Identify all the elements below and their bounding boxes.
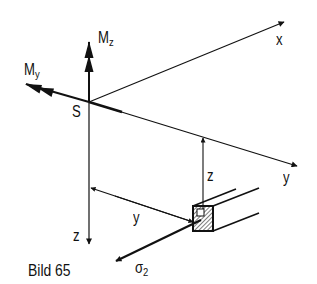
stress-arrow [116, 220, 201, 261]
y-axis-thick-segment [89, 102, 122, 112]
label-dimension-y: y [133, 210, 140, 226]
label-dimension-z: z [207, 168, 214, 184]
label-stress-sigma2: σ2 [135, 260, 148, 278]
coordinate-diagram [0, 0, 317, 284]
label-z-axis: z [73, 228, 80, 244]
label-y-axis: y [283, 170, 290, 186]
moment-y-arrow [25, 84, 89, 102]
label-moment-y: My [24, 62, 40, 80]
figure-caption: Bild 65 [28, 262, 71, 279]
label-x-axis: x [276, 32, 283, 48]
label-moment-z: Mz [98, 30, 114, 48]
x-axis-line [89, 22, 284, 102]
label-origin-s: S [72, 104, 81, 120]
moment-z-arrow [85, 41, 94, 102]
